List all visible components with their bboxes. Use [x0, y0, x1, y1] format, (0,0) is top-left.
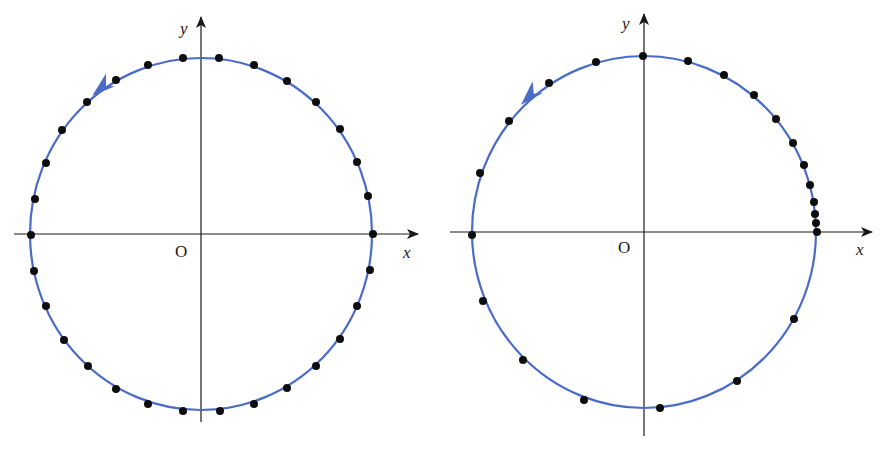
position-dot [369, 230, 377, 238]
position-dot [750, 91, 758, 99]
position-dot [312, 362, 320, 370]
position-dot [312, 98, 320, 106]
position-dot [545, 79, 553, 87]
position-dot [813, 228, 821, 236]
position-dot [505, 117, 513, 125]
position-dot [772, 115, 780, 123]
position-dot [800, 161, 808, 169]
position-dot [283, 384, 291, 392]
position-dot [216, 407, 224, 415]
position-dot [812, 219, 820, 227]
position-dot [250, 400, 258, 408]
position-dot [811, 210, 819, 218]
position-dot [733, 377, 741, 385]
position-dot [790, 315, 798, 323]
position-dot [806, 181, 814, 189]
position-dot [789, 139, 797, 147]
position-dot [468, 231, 476, 239]
panel-right: y x O [450, 14, 872, 436]
position-dot [366, 266, 374, 274]
position-dot [144, 400, 152, 408]
position-dot [476, 169, 484, 177]
position-dot [58, 126, 66, 134]
position-dot [656, 404, 664, 412]
position-dot [179, 407, 187, 415]
position-dot [720, 71, 728, 79]
position-dot [31, 195, 39, 203]
position-dot [336, 125, 344, 133]
x-axis-label: x [855, 240, 864, 259]
position-dot [179, 54, 187, 62]
position-dot [810, 198, 818, 206]
x-axis-label: x [402, 243, 411, 262]
position-dot [639, 52, 647, 60]
origin-label: O [175, 242, 187, 261]
position-dot [42, 302, 50, 310]
position-dot [215, 54, 223, 62]
position-dot [519, 356, 527, 364]
position-dot [353, 302, 361, 310]
position-dot [42, 159, 50, 167]
y-axis-label: y [178, 19, 188, 38]
panel-left: y x O [14, 17, 418, 422]
position-dot [83, 98, 91, 106]
position-dot [580, 396, 588, 404]
position-dot [84, 362, 92, 370]
position-dot [353, 158, 361, 166]
position-dot [364, 192, 372, 200]
circular-motion-figure: y x O y x O [0, 0, 884, 454]
position-dot [250, 61, 258, 69]
y-axis-label: y [620, 14, 630, 33]
position-dot [30, 267, 38, 275]
position-dot [112, 385, 120, 393]
position-dot [592, 58, 600, 66]
position-dot [144, 61, 152, 69]
position-dot [112, 76, 120, 84]
origin-label: O [618, 238, 630, 257]
position-dot [684, 57, 692, 65]
position-dot [60, 336, 68, 344]
position-dot [336, 335, 344, 343]
position-dot [479, 297, 487, 305]
position-dot [283, 77, 291, 85]
position-dot [27, 231, 35, 239]
